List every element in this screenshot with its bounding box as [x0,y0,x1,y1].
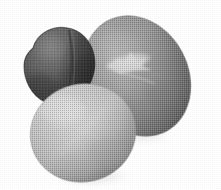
pebbles-canvas [0,0,221,190]
global-halftone-overlay [0,0,221,190]
pebbles-image: Photograph of three smooth grayscale sto… [0,0,221,190]
